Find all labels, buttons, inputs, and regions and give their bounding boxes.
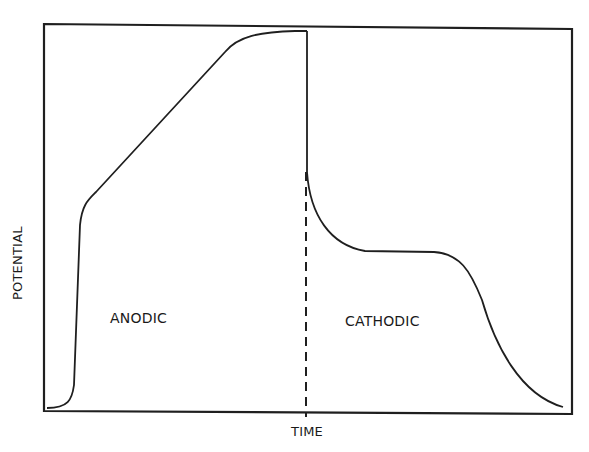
anodic-curve [47, 31, 307, 408]
cathodic-region-label: CATHODIC [345, 313, 420, 329]
chart-canvas [0, 0, 589, 452]
y-axis-label: POTENTIAL [10, 226, 25, 300]
anodic-region-label: ANODIC [110, 310, 167, 326]
x-axis-label: TIME [291, 424, 323, 439]
plot-frame [44, 24, 572, 414]
cathodic-curve [307, 31, 563, 407]
